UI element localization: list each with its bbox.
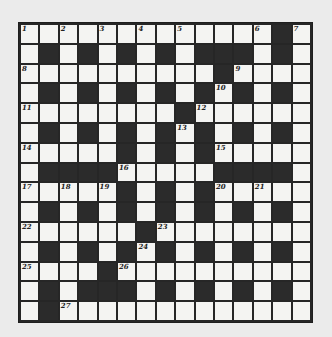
grid-cell[interactable] <box>79 263 96 281</box>
grid-cell[interactable] <box>99 144 116 162</box>
grid-cell[interactable] <box>40 144 57 162</box>
grid-cell[interactable] <box>137 104 154 122</box>
grid-cell[interactable] <box>40 104 57 122</box>
grid-cell[interactable]: 10 <box>215 84 232 102</box>
grid-cell[interactable] <box>273 183 290 201</box>
grid-cell[interactable] <box>99 302 116 320</box>
grid-cell[interactable] <box>215 243 232 261</box>
grid-cell[interactable] <box>40 223 57 241</box>
grid-cell[interactable] <box>137 84 154 102</box>
grid-cell[interactable] <box>79 302 96 320</box>
grid-cell[interactable] <box>157 65 174 83</box>
grid-cell[interactable] <box>176 223 193 241</box>
grid-cell[interactable] <box>118 104 135 122</box>
grid-cell[interactable] <box>196 223 213 241</box>
grid-cell[interactable]: 23 <box>157 223 174 241</box>
grid-cell[interactable] <box>234 104 251 122</box>
grid-cell[interactable]: 3 <box>99 25 116 43</box>
grid-cell[interactable]: 22 <box>21 223 38 241</box>
grid-cell[interactable] <box>176 203 193 221</box>
grid-cell[interactable] <box>254 104 271 122</box>
grid-cell[interactable] <box>21 203 38 221</box>
grid-cell[interactable] <box>176 243 193 261</box>
grid-cell[interactable] <box>273 144 290 162</box>
grid-cell[interactable] <box>254 144 271 162</box>
grid-cell[interactable]: 25 <box>21 263 38 281</box>
grid-cell[interactable] <box>137 183 154 201</box>
grid-cell[interactable] <box>21 282 38 300</box>
grid-cell[interactable]: 1 <box>21 25 38 43</box>
grid-cell[interactable] <box>60 65 77 83</box>
grid-cell[interactable] <box>176 263 193 281</box>
grid-cell[interactable] <box>137 124 154 142</box>
grid-cell[interactable] <box>234 302 251 320</box>
grid-cell[interactable] <box>40 65 57 83</box>
grid-cell[interactable] <box>234 223 251 241</box>
grid-cell[interactable] <box>293 45 310 63</box>
grid-cell[interactable] <box>79 104 96 122</box>
grid-cell[interactable] <box>99 203 116 221</box>
grid-cell[interactable] <box>215 104 232 122</box>
grid-cell[interactable] <box>157 25 174 43</box>
grid-cell[interactable] <box>137 65 154 83</box>
grid-cell[interactable] <box>234 25 251 43</box>
grid-cell[interactable] <box>176 144 193 162</box>
grid-cell[interactable] <box>215 282 232 300</box>
grid-cell[interactable] <box>196 164 213 182</box>
grid-cell[interactable] <box>196 302 213 320</box>
grid-cell[interactable] <box>79 25 96 43</box>
grid-cell[interactable]: 9 <box>234 65 251 83</box>
grid-cell[interactable] <box>60 104 77 122</box>
grid-cell[interactable]: 4 <box>137 25 154 43</box>
grid-cell[interactable] <box>79 183 96 201</box>
grid-cell[interactable] <box>60 144 77 162</box>
grid-cell[interactable] <box>293 104 310 122</box>
grid-cell[interactable] <box>176 183 193 201</box>
grid-cell[interactable] <box>273 263 290 281</box>
grid-cell[interactable]: 18 <box>60 183 77 201</box>
grid-cell[interactable] <box>293 243 310 261</box>
grid-cell[interactable] <box>21 84 38 102</box>
grid-cell[interactable] <box>176 45 193 63</box>
grid-cell[interactable] <box>215 25 232 43</box>
grid-cell[interactable] <box>21 45 38 63</box>
grid-cell[interactable] <box>176 164 193 182</box>
grid-cell[interactable] <box>118 302 135 320</box>
grid-cell[interactable] <box>79 65 96 83</box>
grid-cell[interactable] <box>215 124 232 142</box>
grid-cell[interactable] <box>60 45 77 63</box>
grid-cell[interactable] <box>293 263 310 281</box>
grid-cell[interactable] <box>137 282 154 300</box>
grid-cell[interactable] <box>99 65 116 83</box>
grid-cell[interactable] <box>273 104 290 122</box>
grid-cell[interactable] <box>137 203 154 221</box>
grid-cell[interactable] <box>196 263 213 281</box>
grid-cell[interactable] <box>60 263 77 281</box>
grid-cell[interactable] <box>157 263 174 281</box>
grid-cell[interactable]: 5 <box>176 25 193 43</box>
grid-cell[interactable] <box>215 263 232 281</box>
grid-cell[interactable]: 26 <box>118 263 135 281</box>
grid-cell[interactable] <box>137 144 154 162</box>
grid-cell[interactable] <box>118 65 135 83</box>
grid-cell[interactable] <box>196 25 213 43</box>
grid-cell[interactable] <box>254 282 271 300</box>
grid-cell[interactable] <box>254 243 271 261</box>
grid-cell[interactable] <box>254 65 271 83</box>
grid-cell[interactable] <box>99 104 116 122</box>
grid-cell[interactable] <box>157 164 174 182</box>
grid-cell[interactable]: 21 <box>254 183 271 201</box>
grid-cell[interactable] <box>293 65 310 83</box>
grid-cell[interactable] <box>60 282 77 300</box>
grid-cell[interactable] <box>293 124 310 142</box>
grid-cell[interactable] <box>99 124 116 142</box>
grid-cell[interactable] <box>60 124 77 142</box>
grid-cell[interactable] <box>293 183 310 201</box>
grid-cell[interactable] <box>293 282 310 300</box>
grid-cell[interactable]: 7 <box>293 25 310 43</box>
grid-cell[interactable] <box>293 144 310 162</box>
grid-cell[interactable] <box>176 302 193 320</box>
grid-cell[interactable] <box>40 25 57 43</box>
grid-cell[interactable]: 16 <box>118 164 135 182</box>
grid-cell[interactable] <box>137 45 154 63</box>
